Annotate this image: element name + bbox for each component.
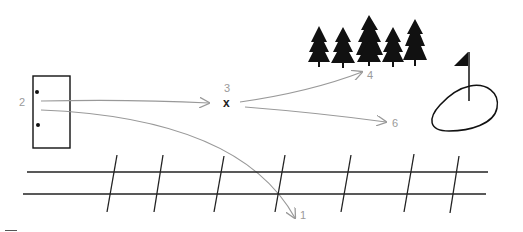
start-box: [33, 76, 70, 148]
label-3: 3: [224, 83, 230, 94]
flag-on-green-icon: [432, 52, 498, 131]
dot-icon: [36, 123, 40, 127]
label-6: 6: [392, 118, 398, 129]
midpoint-x-marker: x: [223, 97, 230, 109]
arrow-to-6: [245, 107, 386, 122]
trees-icon: [308, 15, 427, 68]
arrow-to-4: [240, 72, 362, 102]
label-1: 1: [300, 210, 306, 221]
dot-icon: [35, 90, 39, 94]
corner-mark: [5, 230, 17, 231]
trajectory-arrows: [41, 72, 386, 218]
label-4: 4: [367, 70, 373, 81]
fence-icon: [23, 154, 488, 213]
arrow-to-3: [41, 100, 209, 103]
arrow-to-1: [41, 110, 295, 218]
label-2: 2: [19, 97, 25, 108]
diagram-canvas: 2 3 x 4 6 1: [0, 0, 523, 232]
